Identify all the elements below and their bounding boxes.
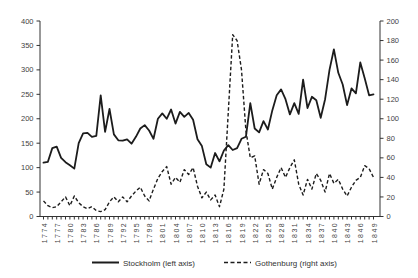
right-axis-tick-label: 140 xyxy=(387,75,400,84)
x-axis-year-label: 1816 xyxy=(225,222,232,243)
left-axis-tick-label: 300 xyxy=(21,65,34,74)
right-axis-tick-label: 160 xyxy=(387,56,400,65)
x-axis-year-label: 1822 xyxy=(252,222,259,243)
left-axis-tick-label: 150 xyxy=(21,139,34,148)
x-axis-year-label: 1828 xyxy=(278,222,285,243)
x-axis-year-label: 1783 xyxy=(80,222,87,243)
x-axis-year-label: 1831 xyxy=(291,222,298,243)
x-axis-year-label: 1804 xyxy=(173,222,180,243)
x-axis-year-label: 1798 xyxy=(146,222,153,243)
x-axis-year-label: 1843 xyxy=(344,222,351,243)
right-axis-tick-label: 80 xyxy=(387,134,395,143)
chart-background xyxy=(0,0,418,278)
x-axis-year-label: 1840 xyxy=(331,222,338,243)
right-axis-tick-label: 0 xyxy=(387,212,391,221)
x-axis-year-label: 1837 xyxy=(318,222,325,243)
line-chart: 050100150200250300350400 020406080100120… xyxy=(0,0,418,278)
legend-gothenburg-label: Gothenburg (right axis) xyxy=(255,259,337,268)
x-axis-year-label: 1813 xyxy=(212,222,219,243)
right-axis-tick-label: 60 xyxy=(387,153,395,162)
x-axis-year-label: 1807 xyxy=(186,222,193,243)
x-axis-year-label: 1789 xyxy=(107,222,114,243)
left-axis-tick-label: 0 xyxy=(29,212,33,221)
x-axis-year-label: 1846 xyxy=(357,222,364,243)
left-axis-tick-label: 200 xyxy=(21,114,34,123)
left-axis-tick-label: 350 xyxy=(21,41,34,50)
x-axis-year-label: 1786 xyxy=(93,222,100,243)
x-axis-year-label: 1825 xyxy=(265,222,272,243)
x-axis-year-label: 1777 xyxy=(54,222,61,243)
right-axis-tick-label: 20 xyxy=(387,193,395,202)
right-axis-tick-label: 120 xyxy=(387,95,400,104)
x-axis-year-label: 1795 xyxy=(133,222,140,243)
left-axis-tick-label: 400 xyxy=(21,17,34,26)
left-axis-tick-label: 250 xyxy=(21,90,34,99)
legend-stockholm-label: Stockholm (left axis) xyxy=(123,259,195,268)
right-axis-tick-label: 100 xyxy=(387,114,400,123)
left-axis-tick-label: 100 xyxy=(21,163,34,172)
left-axis-tick-label: 50 xyxy=(25,188,33,197)
x-axis-year-label: 1801 xyxy=(159,222,166,243)
right-axis-tick-label: 200 xyxy=(387,17,400,26)
right-axis-tick-label: 180 xyxy=(387,36,400,45)
right-axis-tick-label: 40 xyxy=(387,173,395,182)
x-axis-year-label: 1819 xyxy=(239,222,246,243)
x-axis-year-label: 1774 xyxy=(41,222,48,243)
x-axis-year-label: 1810 xyxy=(199,222,206,243)
x-axis-year-label: 1849 xyxy=(371,222,378,243)
x-axis-year-label: 1792 xyxy=(120,222,127,243)
x-axis-year-label: 1834 xyxy=(305,222,312,243)
x-axis-year-label: 1780 xyxy=(67,222,74,243)
